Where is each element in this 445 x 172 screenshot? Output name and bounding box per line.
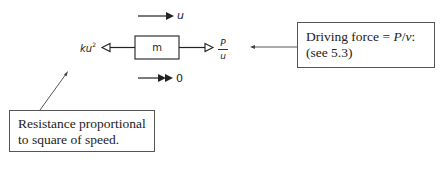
resistance-label-exponent: 2	[92, 41, 96, 48]
resistance-callout-pointer-icon	[40, 71, 68, 110]
driving-callout-var-p: P	[393, 29, 401, 44]
driving-callout-line-1: Driving force = P/v:	[306, 29, 426, 45]
mass-label: m	[135, 36, 179, 59]
acceleration-arrow-icon	[138, 74, 173, 82]
acceleration-label: 0	[176, 73, 183, 84]
velocity-arrow-icon	[138, 12, 174, 20]
driving-force-fraction: P u	[218, 38, 228, 61]
resistance-label-base: ku	[80, 43, 92, 54]
driving-force-callout: Driving force = P/v: (see 5.3)	[297, 22, 435, 68]
resistance-arrow-icon	[102, 44, 135, 52]
force-diagram: u m ku2 P u 0 Driving force = P/v: (see …	[0, 0, 445, 172]
fraction-bar	[218, 49, 228, 50]
driving-force-denominator: u	[218, 51, 228, 61]
resistance-callout: Resistance proportional to square of spe…	[9, 110, 155, 152]
driving-callout-pointer-icon	[250, 45, 297, 49]
resistance-label: ku2	[80, 42, 96, 54]
velocity-label: u	[177, 10, 184, 21]
driving-callout-colon: :	[411, 29, 415, 44]
driving-force-numerator: P	[218, 38, 228, 48]
resistance-callout-line-2: to square of speed.	[18, 132, 146, 148]
resistance-callout-line-1: Resistance proportional	[18, 116, 146, 132]
driving-callout-line-2: (see 5.3)	[306, 45, 426, 61]
driving-callout-text: Driving force =	[306, 29, 393, 44]
driving-force-arrow-icon	[179, 44, 213, 52]
